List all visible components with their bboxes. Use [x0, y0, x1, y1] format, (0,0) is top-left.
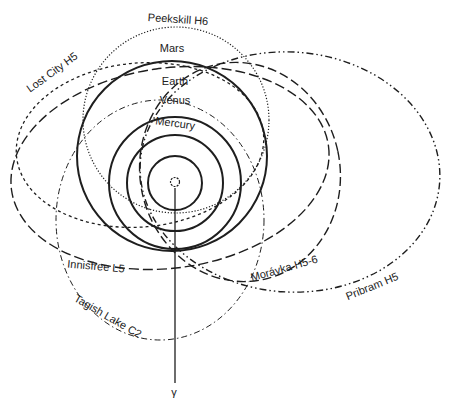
label-gamma: γ: [171, 386, 177, 398]
label-tagish-lake: Tagish Lake C2: [72, 292, 144, 340]
orbit-diagram: Mars Earth Venus Mercury Peekskill H6 Lo…: [0, 0, 452, 413]
label-mercury: Mercury: [155, 114, 197, 131]
label-moravka: Morávka H5-6: [249, 253, 319, 284]
sun-icon: [171, 178, 180, 187]
label-peekskill: Peekskill H6: [147, 11, 208, 27]
label-lost-city: Lost City H5: [24, 50, 80, 95]
label-earth: Earth: [162, 75, 188, 87]
label-venus: Venus: [160, 94, 191, 106]
label-innisfree: Innisfree L5: [67, 258, 125, 275]
label-mars: Mars: [160, 42, 185, 54]
